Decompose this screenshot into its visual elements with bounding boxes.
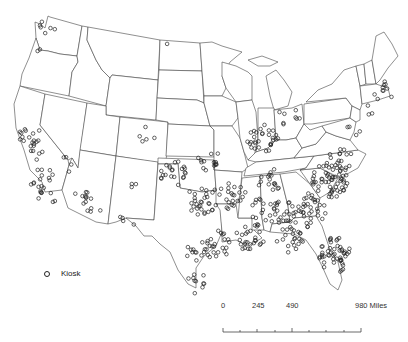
kiosk-marker <box>223 250 227 254</box>
kiosk-marker <box>286 244 290 248</box>
kiosk-marker <box>294 247 298 251</box>
legend-label-kiosk: Kiosk <box>61 269 81 278</box>
scale-label-490: 490 <box>286 301 299 310</box>
scale-label-0: 0 <box>221 301 225 310</box>
kiosk-marker <box>316 214 320 218</box>
kiosk-marker <box>354 133 358 137</box>
kiosk-marker <box>284 233 288 237</box>
kiosk-marker <box>225 246 229 250</box>
kiosk-marker <box>333 247 337 251</box>
kiosk-marker <box>221 246 225 250</box>
kiosk-marker <box>193 291 197 295</box>
kiosk-marker <box>216 251 220 255</box>
kiosk-marker <box>321 217 325 221</box>
kiosk-marker <box>214 254 218 258</box>
scale-label-980: 980 Miles <box>355 301 387 310</box>
kiosk-marker <box>212 251 216 255</box>
kiosk-marker <box>40 20 44 24</box>
kiosk-marker <box>258 230 262 234</box>
kiosk-marker <box>335 195 339 199</box>
kiosk-marker <box>348 247 352 251</box>
scale-label-245: 245 <box>252 301 265 310</box>
kiosk-marker <box>366 104 370 108</box>
kiosk-marker <box>367 113 371 117</box>
kiosk-marker <box>281 238 285 242</box>
kiosk-marker <box>202 274 206 278</box>
kiosk-marker <box>239 243 243 247</box>
kiosk-marker <box>297 242 301 246</box>
kiosk-marker <box>286 251 290 255</box>
scale-bar <box>223 328 361 332</box>
kiosk-marker <box>37 197 41 201</box>
kiosk-marker <box>292 244 296 248</box>
kiosk-symbol-icon <box>44 271 50 277</box>
kiosk-marker <box>322 204 326 208</box>
kiosk-marker <box>201 286 205 290</box>
kiosk-marker <box>275 240 279 244</box>
map-legend: Kiosk <box>44 269 81 278</box>
kiosk-marker <box>259 242 263 246</box>
kiosk-marker <box>324 212 328 216</box>
kiosk-marker <box>49 191 53 195</box>
kiosk-marker <box>336 182 340 186</box>
kiosk-marker <box>345 182 349 186</box>
us-map <box>0 0 408 342</box>
kiosk-marker <box>358 130 362 134</box>
kiosk-marker <box>390 95 394 99</box>
